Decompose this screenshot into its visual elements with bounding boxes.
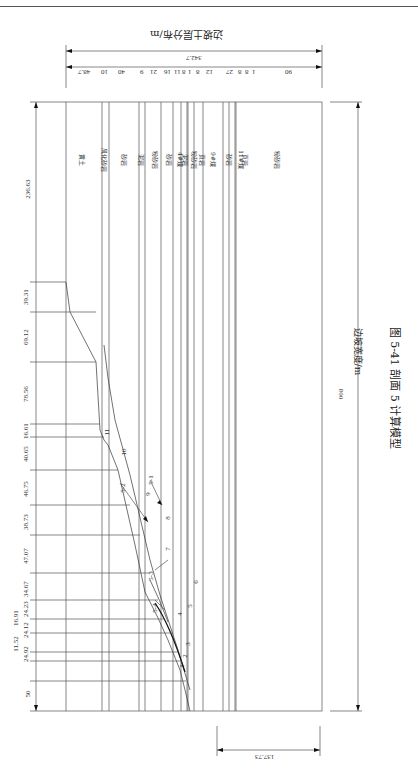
layer-thickness-3: 40	[118, 68, 125, 76]
layer-name: 9#煤	[209, 152, 218, 167]
slope-segment-14: 11.52	[12, 636, 20, 652]
layer-thickness-12: 27	[226, 68, 233, 76]
layer-thickness-11: 12	[206, 68, 213, 76]
layer-name: 风化砂岩	[100, 148, 109, 172]
bench-label-1: 1	[178, 664, 186, 668]
total-layer-thickness: 342.7	[186, 54, 202, 62]
bench-label-7: 7	[164, 547, 172, 551]
layer-thickness-9: 1	[188, 68, 192, 76]
layer-thickness-4: 9	[140, 68, 144, 76]
layer-name: 砂岩	[120, 154, 129, 166]
slope-segment-10: 34.67	[22, 581, 30, 597]
bench-label-6: 6	[192, 580, 200, 584]
layer-name-loess: 黄土	[78, 154, 87, 166]
layer-thickness-5: 21	[150, 68, 157, 76]
bench-label-10: 10	[120, 449, 128, 456]
slope-segment-4: 78.56	[22, 386, 30, 402]
layer-name: 砂岩	[165, 154, 174, 166]
layer-name: 粉砂岩	[273, 151, 282, 169]
slide-label-5-2: 5-2	[119, 483, 127, 492]
slope-segment-15: 24.92	[22, 646, 30, 662]
slope-segment-1: 236.63	[24, 179, 32, 198]
layer-thickness-1: 48.7	[78, 68, 90, 76]
layer-thickness-13: 8	[238, 68, 242, 76]
layer-thickness-7: 11	[174, 68, 181, 76]
layer-thickness-16: 90	[285, 68, 292, 76]
layer-name: 砂岩	[225, 154, 234, 166]
bench-label-2: 2	[181, 654, 189, 658]
slope-segment-16: 50	[24, 691, 32, 698]
layer-thickness-14: 8	[245, 68, 249, 76]
slide-label-5-1: 5-1	[147, 475, 155, 484]
figure-caption: 图 5-41 剖面 5 计算模型	[388, 327, 404, 450]
layer-name: 粉砂岩	[151, 151, 160, 169]
layer-thickness-2: 10	[101, 68, 108, 76]
bench-label-3: 3	[184, 642, 192, 646]
base-height-dim: 137.73	[255, 753, 274, 761]
slope-segment-11: 24.23	[22, 601, 30, 617]
layer-distribution-title: 边坡土层分布/m	[150, 28, 223, 43]
layer-thickness-6: 16	[164, 68, 171, 76]
slide-label-5-4: 5-4	[151, 603, 159, 612]
slope-segment-7: 46.75	[22, 481, 30, 497]
bench-label-9: 9	[144, 492, 152, 496]
slope-segment-9: 47.07	[22, 548, 30, 564]
layer-thickness-8: 8	[182, 68, 186, 76]
cross-section-drawing	[0, 0, 418, 782]
slope-segment-2: 39.31	[22, 289, 30, 305]
x-axis-label: 边坡宽度/m	[352, 328, 365, 376]
slope-segment-12: 16.91	[12, 610, 20, 626]
layer-name: 页岩	[241, 154, 250, 166]
bench-label-5: 5	[186, 604, 194, 608]
layer-name: 泥岩	[181, 154, 190, 166]
slope-segment-5: 16.61	[22, 423, 30, 439]
slope-segment-8: 38.73	[22, 514, 30, 530]
layer-thickness-10: 8	[196, 68, 200, 76]
slope-segment-13: 24.12	[22, 622, 30, 638]
slope-segment-3: 69.12	[22, 329, 30, 345]
slide-label-5-3: 5-3	[147, 571, 155, 580]
bench-label-8: 8	[164, 516, 172, 520]
layer-thickness-15: 1	[252, 68, 256, 76]
bench-label-11: 11	[103, 429, 111, 436]
bench-label-4: 4	[176, 612, 184, 616]
layer-name: 泥岩	[137, 154, 146, 166]
total-width-dim: 800	[337, 389, 345, 400]
layer-name: 页岩	[198, 154, 207, 166]
slope-segment-6: 40.65	[22, 446, 30, 462]
